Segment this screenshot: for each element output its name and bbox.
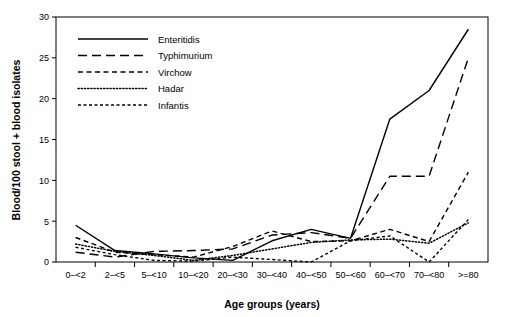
y-axis-ticks: 051015202530 — [39, 12, 56, 267]
series-line-typhimurium — [76, 58, 469, 257]
x-tick-label: 10–<20 — [178, 270, 208, 280]
legend-label-virchow: Virchow — [158, 67, 192, 78]
x-tick-label: 50–<60 — [335, 270, 365, 280]
y-tick-label: 10 — [39, 176, 49, 186]
x-axis-title: Age groups (years) — [224, 298, 320, 310]
chart-legend: EnteritidisTyphimuriumVirchowHadarInfant… — [78, 34, 212, 111]
x-tick-label: 20–<30 — [218, 270, 248, 280]
x-tick-label: 40–<50 — [296, 270, 326, 280]
y-tick-label: 15 — [39, 135, 49, 145]
legend-label-typhimurium: Typhimurium — [158, 50, 212, 61]
y-tick-label: 5 — [44, 217, 49, 227]
x-tick-label: 2–<5 — [105, 270, 125, 280]
y-tick-label: 30 — [39, 12, 49, 22]
chart-figure: 051015202530 0–<22–<55–<1010–<2020–<3030… — [0, 0, 506, 317]
x-axis-ticks: 0–<22–<55–<1010–<2020–<3030–<4040–<5050–… — [65, 262, 478, 280]
plot-frame — [56, 17, 488, 262]
line-chart: 051015202530 0–<22–<55–<1010–<2020–<3030… — [0, 0, 506, 317]
y-axis-title: Blood/100 stool + blood isolates — [10, 59, 22, 220]
x-tick-label: >=80 — [458, 270, 479, 280]
legend-label-hadar: Hadar — [158, 83, 184, 94]
x-tick-label: 5–<10 — [142, 270, 167, 280]
legend-label-infantis: Infantis — [158, 100, 189, 111]
x-tick-label: 0–<2 — [65, 270, 85, 280]
series-line-enteritidis — [76, 29, 469, 260]
series-line-virchow — [76, 172, 469, 257]
y-tick-label: 20 — [39, 94, 49, 104]
x-tick-label: 60–<70 — [375, 270, 405, 280]
y-tick-label: 25 — [39, 53, 49, 63]
series-lines — [76, 29, 469, 262]
legend-label-enteritidis: Enteritidis — [158, 34, 200, 45]
x-tick-label: 30–<40 — [257, 270, 287, 280]
x-tick-label: 70–<80 — [414, 270, 444, 280]
y-tick-label: 0 — [44, 257, 49, 267]
